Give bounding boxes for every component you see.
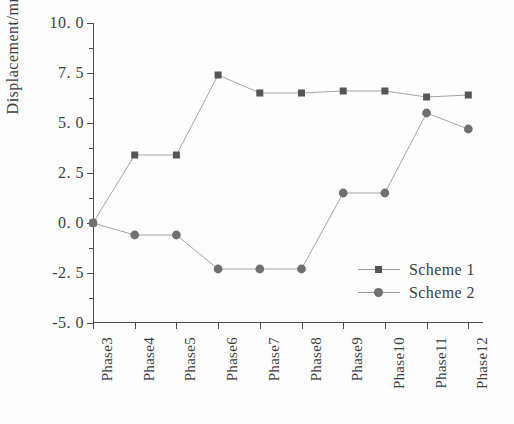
data-point-1 [298,90,305,97]
data-point-2 [381,189,390,198]
data-point-2 [339,189,348,198]
y-tick-label: 2. 5 [58,164,84,182]
data-point-2 [130,231,139,240]
x-tick-label: Phase11 [433,337,450,389]
legend-item-scheme-2: Scheme 2 [358,281,508,304]
x-tick-mark [218,323,219,329]
data-point-1 [340,88,347,95]
x-tick-label: Phase3 [99,337,116,381]
data-point-1 [381,88,388,95]
x-tick-mark [260,323,261,329]
series-line-1 [93,75,468,223]
x-tick-mark [93,323,94,329]
series-line-2 [93,113,468,269]
data-point-2 [255,265,264,274]
chart-legend: Scheme 1 Scheme 2 [358,258,508,304]
data-point-1 [131,152,138,159]
y-tick-label: 7. 5 [58,64,84,82]
x-tick-label: Phase9 [349,337,366,381]
legend-marker-square-icon [358,263,400,277]
x-tick-label: Phase7 [266,337,283,381]
x-tick-label: Phase12 [474,337,491,389]
data-point-1 [173,152,180,159]
x-tick-mark [135,323,136,329]
legend-item-scheme-1: Scheme 1 [358,258,508,281]
y-tick-label: 10. 0 [50,14,85,32]
data-point-1 [215,72,222,79]
x-tick-label: Phase6 [224,337,241,381]
data-point-2 [172,231,181,240]
x-tick-mark [343,323,344,329]
x-tick-mark [302,323,303,329]
y-tick-label: 5. 0 [58,114,84,132]
data-point-2 [422,109,431,118]
data-point-2 [89,219,98,228]
legend-marker-circle-icon [358,286,400,300]
chart-figure: Displacement/mm 10. 07. 55. 02. 50. 0-2.… [0,0,514,424]
y-tick-label: -2. 5 [52,264,84,282]
x-tick-mark [385,323,386,329]
y-tick-label: 0. 0 [58,214,84,232]
data-point-2 [464,125,473,134]
data-point-2 [214,265,223,274]
x-tick-label: Phase10 [391,337,408,389]
legend-label: Scheme 2 [409,284,475,302]
x-tick-label: Phase5 [182,337,199,381]
x-tick-mark [468,323,469,329]
data-point-1 [465,92,472,99]
x-tick-label: Phase8 [308,337,325,381]
data-point-1 [256,90,263,97]
x-tick-label: Phase4 [141,337,158,381]
legend-label: Scheme 1 [409,261,475,279]
y-tick-label: -5. 0 [52,314,84,332]
y-axis-title: Displacement/mm [4,0,30,202]
data-point-2 [297,265,306,274]
data-point-1 [423,94,430,101]
x-tick-mark [176,323,177,329]
x-tick-mark [427,323,428,329]
